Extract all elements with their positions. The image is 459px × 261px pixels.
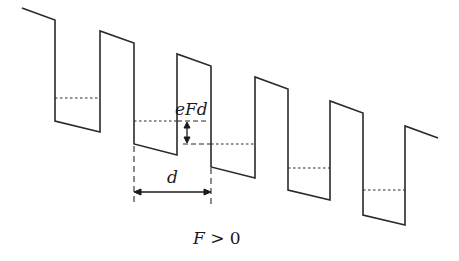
efd-reference-lines <box>177 121 211 144</box>
well-levels <box>55 98 405 190</box>
superlattice-diagram: eFd d F > 0 <box>0 0 459 261</box>
efd-label: eFd <box>175 99 208 119</box>
arrow-right-icon <box>204 189 211 195</box>
efd-arrow <box>184 122 190 143</box>
band-edge-profile <box>22 8 438 225</box>
field-condition-label: F > 0 <box>192 228 241 248</box>
arrow-left-icon <box>134 189 141 195</box>
field-relation: > 0 <box>205 228 241 248</box>
arrow-up-icon <box>184 122 190 128</box>
arrow-down-icon <box>184 137 190 143</box>
period-arrow <box>134 189 211 195</box>
period-label: d <box>167 167 178 187</box>
